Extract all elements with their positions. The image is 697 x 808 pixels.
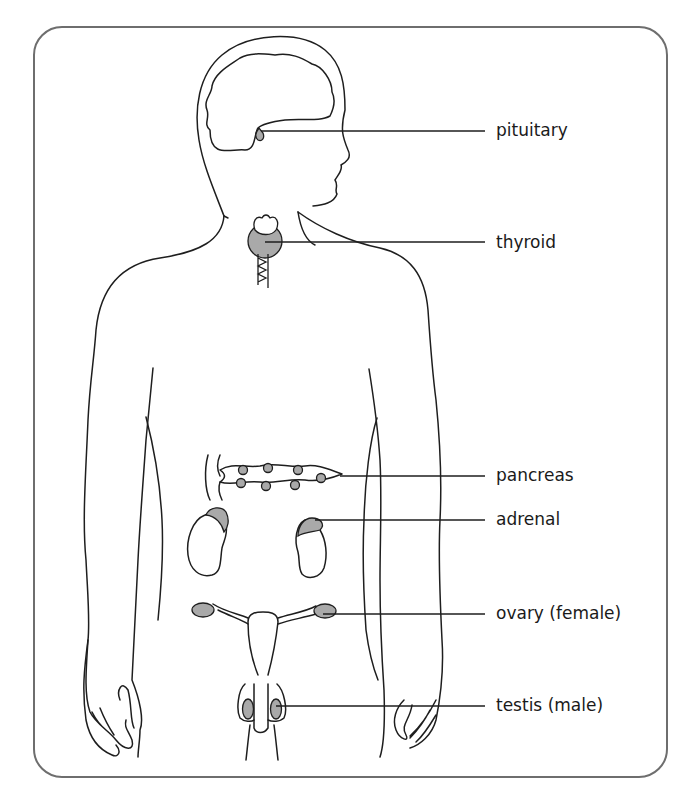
label-testis: testis (male) [496, 695, 603, 715]
left-torso-side [146, 417, 163, 620]
right-inner-arm [369, 369, 384, 757]
body-left-outline [84, 216, 224, 756]
label-pituitary: pituitary [496, 120, 568, 140]
pancreas-islet [317, 474, 326, 483]
pancreas-islet [294, 466, 303, 475]
left-inner-arm [132, 368, 153, 757]
thyroid-cartilage [254, 215, 278, 235]
label-pancreas: pancreas [496, 465, 574, 485]
fallopian-tubes [213, 604, 316, 624]
label-adrenal: adrenal [496, 509, 560, 529]
uterus [248, 612, 278, 675]
duodenum-curve [206, 455, 210, 500]
right-testis [271, 699, 282, 719]
diagram-frame [34, 27, 667, 777]
pancreas-islet [262, 482, 271, 491]
head-outline [197, 37, 349, 216]
endocrine-diagram: pituitary thyroid pancreas adrenal ovary… [0, 0, 697, 808]
right-torso-side [363, 418, 378, 680]
left-testis [243, 699, 254, 719]
right-adrenal-gland [298, 518, 322, 536]
right-ovary [314, 604, 336, 618]
trachea [258, 254, 268, 288]
label-thyroid: thyroid [496, 232, 556, 252]
left-hand [86, 640, 134, 748]
pancreas-islet [291, 481, 300, 490]
label-ovary: ovary (female) [496, 603, 621, 623]
penis [254, 684, 268, 733]
brain-outline [206, 54, 334, 151]
left-adrenal-gland [206, 508, 228, 532]
diagram-canvas [0, 0, 697, 808]
duodenum-curve-inner [218, 455, 222, 500]
left-leg [246, 725, 250, 760]
pancreas-islet [237, 479, 246, 488]
pancreas-islet [239, 466, 248, 475]
left-ovary [192, 603, 214, 617]
pituitary-gland [256, 128, 264, 141]
pancreas-islet [264, 464, 273, 473]
right-leg [274, 725, 278, 760]
